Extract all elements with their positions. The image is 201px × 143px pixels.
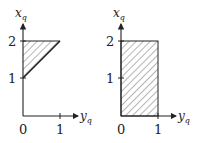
- left-diagram: 2 1 0 1 xq yq: [8, 6, 92, 137]
- y-tick-label-1: 1: [106, 71, 114, 86]
- region-diagrams: 2 1 0 1 xq yq 2 1 0 1 xq yq: [0, 0, 201, 143]
- y-tick-label-1: 1: [8, 71, 16, 86]
- y-tick-label-2: 2: [8, 34, 16, 49]
- vertical-axis-label: xq: [15, 6, 27, 22]
- right-diagram: 2 1 0 1 xq yq: [106, 6, 190, 137]
- x-tick-label-1: 1: [154, 122, 162, 137]
- horizontal-axis-label: yq: [79, 109, 92, 125]
- x-tick-label-1: 1: [56, 122, 64, 137]
- hatched-rectangle-region: [121, 41, 158, 116]
- y-tick-label-2: 2: [106, 34, 114, 49]
- vertical-axis-label: xq: [113, 6, 125, 22]
- x-tick-label-0: 0: [19, 122, 27, 137]
- horizontal-axis-label: yq: [177, 109, 190, 125]
- x-tick-label-0: 0: [117, 122, 125, 137]
